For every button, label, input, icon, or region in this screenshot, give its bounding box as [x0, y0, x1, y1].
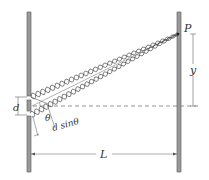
dsin-leader-2	[34, 134, 39, 136]
y-label: y	[189, 64, 197, 77]
theta-label: θ	[45, 113, 51, 123]
left-barrier-top	[27, 12, 31, 96]
left-barrier-middle	[27, 100, 31, 111]
dsin-leader-1	[33, 117, 38, 136]
point-p-label: P	[183, 22, 192, 35]
d-label: d	[13, 102, 19, 113]
wave-from-upper-slit-b	[31, 33, 178, 97]
double-slit-diagram: P y d θ d sinθ L	[0, 0, 209, 180]
l-arrow-left	[31, 153, 35, 156]
wave-group	[30, 33, 179, 117]
left-barrier-bottom	[27, 116, 31, 172]
point-p-marker	[177, 33, 180, 36]
l-label: L	[99, 148, 107, 161]
theta-arc	[40, 103, 41, 107]
d-sin-theta-label: d sinθ	[51, 116, 81, 133]
l-arrow-right	[173, 153, 177, 156]
